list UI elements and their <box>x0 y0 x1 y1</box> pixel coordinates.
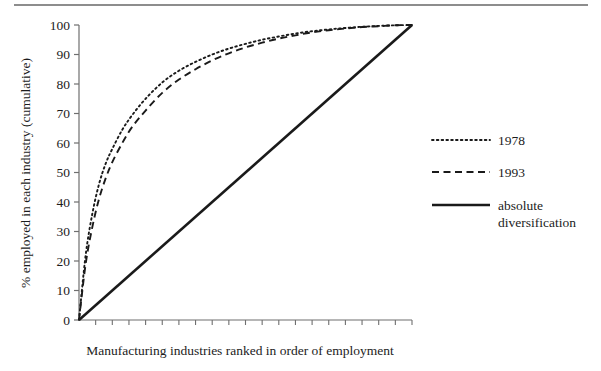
x-axis-ticks <box>96 320 412 325</box>
y-axis-ticks: 0102030405060708090100 <box>50 18 79 328</box>
y-tick-label: 0 <box>63 313 70 328</box>
y-tick-label: 80 <box>57 77 71 92</box>
legend-label-absolute-line2: diversification <box>498 215 576 230</box>
y-tick-label: 20 <box>57 254 71 269</box>
series-line-absolute <box>79 25 412 320</box>
figure-container: 0102030405060708090100 % employed in eac… <box>0 0 601 371</box>
y-tick-label: 40 <box>57 195 71 210</box>
y-axis-title: % employed in each industry (cumulative) <box>18 58 33 288</box>
legend-label-1978: 1978 <box>498 133 525 148</box>
y-tick-label: 50 <box>57 165 71 180</box>
lorenz-curve-chart: 0102030405060708090100 % employed in eac… <box>0 0 601 371</box>
y-tick-label: 90 <box>57 47 71 62</box>
data-series-group <box>79 25 412 320</box>
legend-label-absolute: absolute <box>498 198 543 213</box>
y-tick-label: 60 <box>57 136 71 151</box>
y-tick-label: 70 <box>57 106 71 121</box>
y-tick-label: 100 <box>50 18 71 33</box>
legend-label-1993: 1993 <box>498 165 525 180</box>
x-axis-title: Manufacturing industries ranked in order… <box>86 343 394 358</box>
chart-legend: 19781993absolutediversification <box>432 133 576 230</box>
y-tick-label: 30 <box>57 224 71 239</box>
y-tick-label: 10 <box>57 283 71 298</box>
